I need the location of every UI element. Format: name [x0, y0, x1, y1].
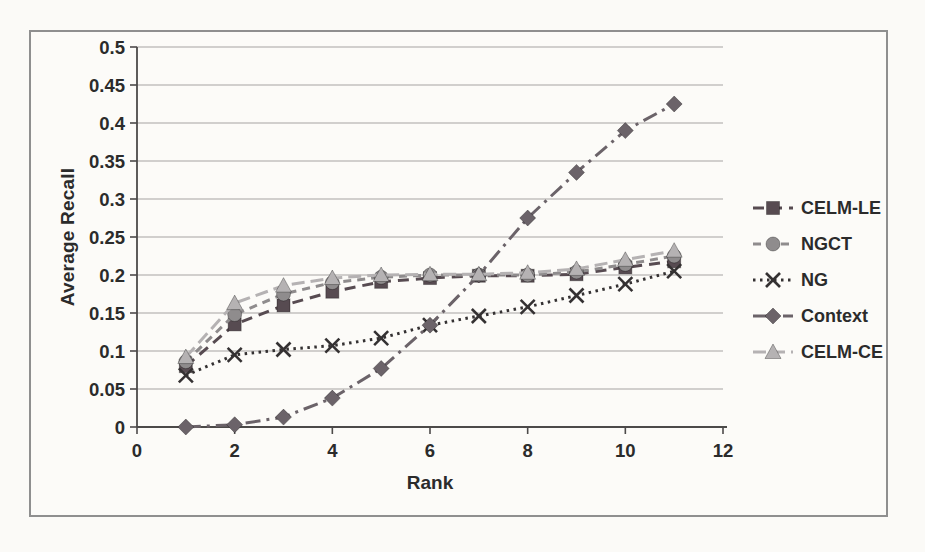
y-tick-label: 0.15 — [89, 303, 125, 324]
y-axis-title: Average Recall — [57, 168, 79, 306]
x-tick-label: 4 — [327, 440, 338, 461]
legend-item-celm-le: CELM-LE — [752, 190, 883, 226]
y-tick-label: 0 — [115, 417, 125, 438]
x-tick-label: 10 — [615, 440, 636, 461]
legend-item-celm-ce: CELM-CE — [752, 334, 883, 370]
legend-label: Context — [801, 306, 868, 327]
y-tick-label: 0.1 — [99, 341, 125, 362]
series-celm-ce — [178, 243, 682, 364]
y-tick-label: 0.05 — [89, 379, 125, 400]
legend-label: NGCT — [801, 234, 852, 255]
page-background: 00.050.10.150.20.250.30.350.40.450.50246… — [0, 0, 925, 552]
y-tick-label: 0.35 — [89, 151, 125, 172]
legend: CELM-LE NGCT NG Context CELM-CE — [752, 190, 883, 370]
circle-marker-icon — [752, 234, 794, 254]
legend-label: CELM-LE — [801, 198, 881, 219]
square-marker-icon — [752, 198, 794, 218]
x-marker-icon — [752, 270, 794, 290]
diamond-marker-icon — [752, 306, 794, 326]
x-tick-label: 6 — [425, 440, 435, 461]
y-tick-label: 0.3 — [99, 189, 125, 210]
legend-item-ng: NG — [752, 262, 883, 298]
triangle-marker-icon — [752, 342, 794, 362]
y-tick-label: 0.25 — [89, 227, 125, 248]
y-tick-label: 0.2 — [99, 265, 125, 286]
legend-label: NG — [801, 270, 828, 291]
legend-label: CELM-CE — [801, 342, 883, 363]
y-tick-label: 0.4 — [99, 113, 125, 134]
x-tick-label: 2 — [230, 440, 240, 461]
y-tick-label: 0.5 — [99, 37, 125, 58]
y-tick-label: 0.45 — [89, 75, 125, 96]
legend-item-context: Context — [752, 298, 883, 334]
x-tick-label: 8 — [523, 440, 533, 461]
x-tick-label: 0 — [132, 440, 142, 461]
x-axis-title: Rank — [407, 472, 453, 494]
x-tick-label: 12 — [713, 440, 734, 461]
legend-item-ngct: NGCT — [752, 226, 883, 262]
